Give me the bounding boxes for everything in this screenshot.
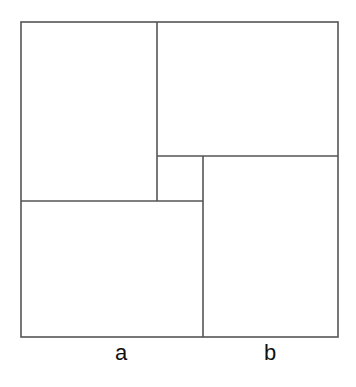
- outer-square: [21, 22, 338, 337]
- pinwheel-square-diagram: [0, 0, 356, 387]
- label-b: b: [264, 340, 276, 366]
- label-a: a: [115, 340, 127, 366]
